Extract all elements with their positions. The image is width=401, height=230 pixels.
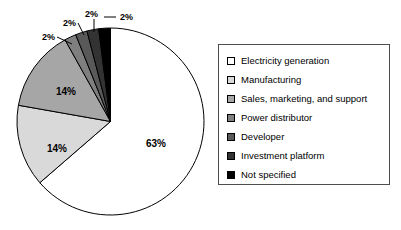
- legend-item: Not specified: [227, 165, 389, 184]
- legend-item: Sales, marketing, and support: [227, 89, 389, 108]
- legend-item-list: Electricity generationManufacturingSales…: [227, 51, 389, 184]
- legend-item-label: Electricity generation: [241, 56, 329, 66]
- pie-chart-figure: 63%14%14% 2%2%2%2% Electricity generatio…: [0, 0, 401, 230]
- legend-item: Electricity generation: [227, 51, 389, 70]
- callout-value-label: 2%: [42, 32, 55, 42]
- legend-swatch-icon: [227, 76, 235, 84]
- legend-item-label: Investment platform: [241, 151, 324, 161]
- slice-value-label: 14%: [47, 143, 67, 154]
- legend-swatch-icon: [227, 152, 235, 160]
- legend-item: Manufacturing: [227, 70, 389, 89]
- legend-swatch-icon: [227, 57, 235, 65]
- legend-item-label: Manufacturing: [241, 75, 301, 85]
- legend-item: Developer: [227, 127, 389, 146]
- legend-item: Investment platform: [227, 146, 389, 165]
- slice-value-label: 63%: [146, 138, 166, 149]
- slice-value-label: 14%: [56, 86, 76, 97]
- legend-swatch-icon: [227, 171, 235, 179]
- legend-item-label: Power distributor: [241, 113, 312, 123]
- chart-legend: Electricity generationManufacturingSales…: [218, 44, 390, 185]
- legend-swatch-icon: [227, 95, 235, 103]
- legend-item-label: Developer: [241, 132, 284, 142]
- legend-item: Power distributor: [227, 108, 389, 127]
- callout-value-label: 2%: [120, 12, 133, 22]
- callout-value-label: 2%: [63, 18, 76, 28]
- callout-value-label: 2%: [85, 9, 98, 19]
- pie-slices-group: [17, 28, 204, 215]
- legend-swatch-icon: [227, 133, 235, 141]
- legend-item-label: Sales, marketing, and support: [241, 94, 367, 104]
- legend-item-label: Not specified: [241, 170, 296, 180]
- legend-swatch-icon: [227, 114, 235, 122]
